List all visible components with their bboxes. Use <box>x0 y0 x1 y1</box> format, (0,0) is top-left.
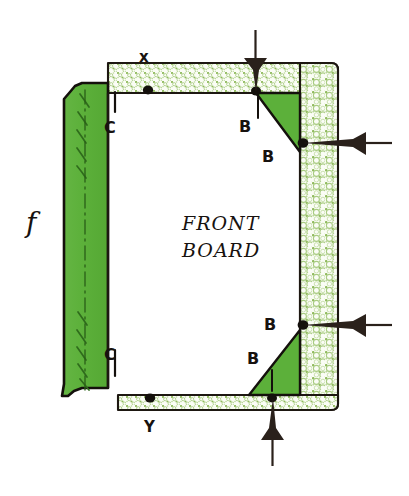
figure-canvas: FRONT BOARD x Y f C C B B B B <box>0 0 409 496</box>
left-cover-flap <box>62 83 108 396</box>
dot-top-left <box>143 86 153 95</box>
label-miter-top-lower-b: B <box>262 147 274 166</box>
label-corner-upper-left-c: C <box>104 118 116 137</box>
label-left-flap-f: f <box>24 206 41 239</box>
dot-bottom-left <box>145 393 155 402</box>
label-miter-bottom-lower-b: B <box>247 349 259 368</box>
label-top-edge-x: x <box>139 48 149 66</box>
board-title-line2: BOARD <box>181 239 260 261</box>
label-bottom-edge-y: Y <box>143 418 156 436</box>
label-corner-lower-left-c: C <box>104 345 116 364</box>
dot-bottom-miter <box>267 394 277 403</box>
front-board-diagram: FRONT BOARD x Y f C C B B B B <box>0 0 409 496</box>
label-miter-bottom-upper-b: B <box>264 315 276 334</box>
label-miter-top-upper-b: B <box>239 117 251 136</box>
board-title-line1: FRONT <box>181 212 260 234</box>
turn-in-right-band <box>300 63 338 410</box>
